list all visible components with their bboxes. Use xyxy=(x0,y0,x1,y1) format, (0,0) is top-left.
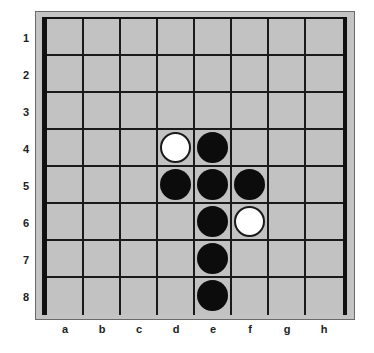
row-label: 2 xyxy=(20,69,32,81)
square-e7[interactable] xyxy=(195,241,232,278)
square-h3[interactable] xyxy=(306,93,343,130)
square-b4[interactable] xyxy=(84,130,121,167)
square-f1[interactable] xyxy=(232,19,269,56)
square-g5[interactable] xyxy=(269,167,306,204)
square-f8[interactable] xyxy=(232,278,269,315)
square-g4[interactable] xyxy=(269,130,306,167)
row-label: 6 xyxy=(20,217,32,229)
black-disc xyxy=(197,280,228,311)
square-h5[interactable] xyxy=(306,167,343,204)
square-g8[interactable] xyxy=(269,278,306,315)
square-h8[interactable] xyxy=(306,278,343,315)
row-label: 1 xyxy=(20,32,32,44)
square-g1[interactable] xyxy=(269,19,306,56)
square-f5[interactable] xyxy=(232,167,269,204)
square-b1[interactable] xyxy=(84,19,121,56)
square-e5[interactable] xyxy=(195,167,232,204)
black-disc xyxy=(197,243,228,274)
square-b8[interactable] xyxy=(84,278,121,315)
black-disc xyxy=(160,169,191,200)
square-h1[interactable] xyxy=(306,19,343,56)
row-label: 3 xyxy=(20,106,32,118)
column-label: d xyxy=(166,323,186,335)
square-f7[interactable] xyxy=(232,241,269,278)
square-h6[interactable] xyxy=(306,204,343,241)
square-h7[interactable] xyxy=(306,241,343,278)
square-d4[interactable] xyxy=(158,130,195,167)
square-a7[interactable] xyxy=(47,241,84,278)
square-e6[interactable] xyxy=(195,204,232,241)
square-f2[interactable] xyxy=(232,56,269,93)
square-b5[interactable] xyxy=(84,167,121,204)
square-c1[interactable] xyxy=(121,19,158,56)
square-g6[interactable] xyxy=(269,204,306,241)
square-d7[interactable] xyxy=(158,241,195,278)
square-g7[interactable] xyxy=(269,241,306,278)
square-a3[interactable] xyxy=(47,93,84,130)
square-b2[interactable] xyxy=(84,56,121,93)
column-label: c xyxy=(129,323,149,335)
square-e2[interactable] xyxy=(195,56,232,93)
square-c5[interactable] xyxy=(121,167,158,204)
square-e1[interactable] xyxy=(195,19,232,56)
white-disc xyxy=(234,206,265,237)
column-label: f xyxy=(240,323,260,335)
black-disc xyxy=(197,169,228,200)
square-g2[interactable] xyxy=(269,56,306,93)
square-c6[interactable] xyxy=(121,204,158,241)
square-h2[interactable] xyxy=(306,56,343,93)
square-e8[interactable] xyxy=(195,278,232,315)
black-disc xyxy=(197,206,228,237)
square-c7[interactable] xyxy=(121,241,158,278)
othello-board xyxy=(47,19,343,315)
white-disc xyxy=(160,132,191,163)
row-label: 7 xyxy=(20,254,32,266)
square-a2[interactable] xyxy=(47,56,84,93)
square-b6[interactable] xyxy=(84,204,121,241)
column-label: a xyxy=(55,323,75,335)
square-f4[interactable] xyxy=(232,130,269,167)
square-a1[interactable] xyxy=(47,19,84,56)
square-a8[interactable] xyxy=(47,278,84,315)
square-b3[interactable] xyxy=(84,93,121,130)
square-d8[interactable] xyxy=(158,278,195,315)
square-a5[interactable] xyxy=(47,167,84,204)
black-disc xyxy=(197,132,228,163)
square-a4[interactable] xyxy=(47,130,84,167)
square-f3[interactable] xyxy=(232,93,269,130)
column-label: g xyxy=(277,323,297,335)
square-e4[interactable] xyxy=(195,130,232,167)
square-d1[interactable] xyxy=(158,19,195,56)
square-d6[interactable] xyxy=(158,204,195,241)
square-c4[interactable] xyxy=(121,130,158,167)
square-c2[interactable] xyxy=(121,56,158,93)
square-a6[interactable] xyxy=(47,204,84,241)
black-disc xyxy=(234,169,265,200)
column-label: e xyxy=(203,323,223,335)
column-label: b xyxy=(92,323,112,335)
square-d3[interactable] xyxy=(158,93,195,130)
square-f6[interactable] xyxy=(232,204,269,241)
square-b7[interactable] xyxy=(84,241,121,278)
square-h4[interactable] xyxy=(306,130,343,167)
row-label: 5 xyxy=(20,180,32,192)
row-label: 8 xyxy=(20,291,32,303)
row-label: 4 xyxy=(20,143,32,155)
square-g3[interactable] xyxy=(269,93,306,130)
column-label: h xyxy=(314,323,334,335)
square-d5[interactable] xyxy=(158,167,195,204)
square-c3[interactable] xyxy=(121,93,158,130)
square-e3[interactable] xyxy=(195,93,232,130)
square-d2[interactable] xyxy=(158,56,195,93)
square-c8[interactable] xyxy=(121,278,158,315)
